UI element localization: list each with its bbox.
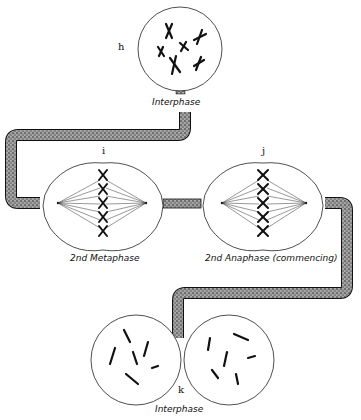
cell-j-anaphase: [203, 163, 323, 251]
connector-i-to-j: [163, 199, 201, 208]
stage-label-h: Interphase: [152, 97, 200, 107]
stage-letter-i: i: [102, 145, 105, 156]
stage-letter-h: h: [118, 41, 124, 52]
meiosis-diagram: [0, 0, 361, 420]
stage-label-j: 2nd Anaphase (commencing): [205, 253, 338, 263]
cell-i-metaphase: [43, 163, 163, 251]
cell-h-interphase: [138, 7, 222, 94]
stage-letter-j: j: [262, 145, 265, 156]
stage-letter-k: k: [178, 384, 184, 395]
stage-label-i: 2nd Metaphase: [70, 253, 140, 263]
stage-label-k: Interphase: [155, 404, 203, 414]
